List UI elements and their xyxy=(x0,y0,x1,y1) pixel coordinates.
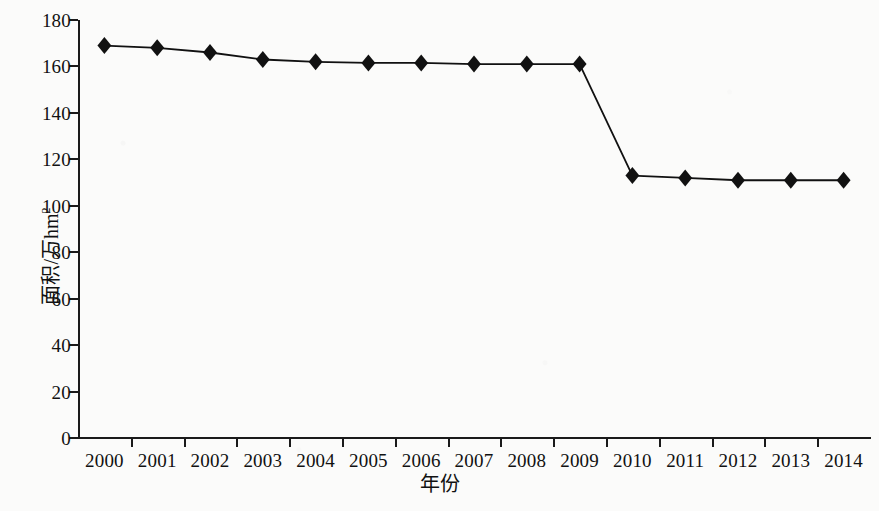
x-tick-label: 2011 xyxy=(666,451,704,470)
data-point-marker xyxy=(309,53,323,70)
y-tick-label: 60 xyxy=(52,289,71,308)
data-point-marker xyxy=(150,39,164,56)
x-tick-label: 2004 xyxy=(296,451,335,470)
x-tick-mark xyxy=(817,438,819,447)
x-tick-label: 2000 xyxy=(85,451,124,470)
series-line-area xyxy=(78,20,870,438)
x-tick-mark xyxy=(764,438,766,447)
x-tick-mark xyxy=(712,438,714,447)
data-point-marker xyxy=(520,56,534,73)
x-tick-mark xyxy=(236,438,238,447)
x-tick-label: 2013 xyxy=(771,451,810,470)
data-point-marker xyxy=(414,54,428,71)
data-point-marker xyxy=(256,51,270,68)
x-tick-mark xyxy=(342,438,344,447)
x-tick-mark xyxy=(659,438,661,447)
series-markers xyxy=(97,37,850,189)
data-point-marker xyxy=(837,172,851,189)
y-tick-label: 80 xyxy=(52,243,71,262)
x-tick-mark xyxy=(289,438,291,447)
x-tick-label: 2010 xyxy=(613,451,652,470)
plot-area: 020406080100120140160180 200020012002200… xyxy=(78,20,870,438)
x-tick-mark xyxy=(606,438,608,447)
x-tick-label: 2001 xyxy=(138,451,177,470)
y-tick-label: 140 xyxy=(42,103,71,122)
x-tick-mark xyxy=(184,438,186,447)
x-tick-label: 2003 xyxy=(243,451,282,470)
x-tick-mark xyxy=(448,438,450,447)
y-tick-label: 120 xyxy=(42,150,71,169)
x-tick-label: 2005 xyxy=(349,451,388,470)
x-tick-mark xyxy=(131,438,133,447)
data-point-marker xyxy=(678,169,692,186)
data-point-marker xyxy=(731,172,745,189)
data-point-marker xyxy=(625,167,639,184)
x-tick-label: 2012 xyxy=(719,451,758,470)
y-tick-label: 180 xyxy=(42,11,71,30)
chart-figure: 面积/万hm2 020406080100120140160180 2000200… xyxy=(0,0,879,511)
data-point-marker xyxy=(361,54,375,71)
y-tick-label: 100 xyxy=(42,196,71,215)
data-point-marker xyxy=(467,56,481,73)
x-tick-mark xyxy=(395,438,397,447)
x-axis-title: 年份 xyxy=(0,474,879,494)
data-point-marker xyxy=(203,44,217,61)
data-point-marker xyxy=(97,37,111,54)
y-tick-label: 20 xyxy=(52,382,71,401)
x-tick-label: 2014 xyxy=(824,451,863,470)
y-tick-label: 0 xyxy=(61,429,71,448)
x-tick-label: 2009 xyxy=(560,451,599,470)
data-point-marker xyxy=(573,56,587,73)
data-point-marker xyxy=(784,172,798,189)
x-tick-label: 2007 xyxy=(455,451,494,470)
x-tick-mark xyxy=(500,438,502,447)
x-tick-label: 2006 xyxy=(402,451,441,470)
y-tick-label: 40 xyxy=(52,336,71,355)
x-tick-label: 2002 xyxy=(191,451,230,470)
x-tick-label: 2008 xyxy=(507,451,546,470)
y-tick-label: 160 xyxy=(42,57,71,76)
x-tick-mark xyxy=(553,438,555,447)
